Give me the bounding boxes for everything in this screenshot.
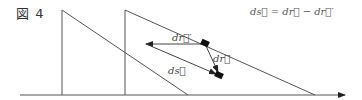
label-ds: ds⃗ <box>168 65 186 76</box>
block-marker-upper <box>200 39 210 48</box>
label-dr-prime: dr⃗′ <box>172 32 192 43</box>
label-dr: dr⃗ <box>213 53 230 64</box>
diagram-canvas: dr⃗′ dr⃗ ds⃗ <box>0 0 362 100</box>
block-marker-lower <box>214 71 224 80</box>
